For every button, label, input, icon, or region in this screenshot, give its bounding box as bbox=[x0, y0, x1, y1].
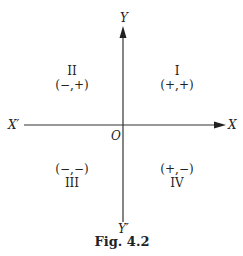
y-axis-label: Y bbox=[120, 12, 128, 24]
quadrant-2-signs: (−,+) bbox=[55, 79, 88, 91]
x-negative-axis-label: X′ bbox=[8, 119, 19, 131]
figure-caption: Fig. 4.2 bbox=[95, 234, 150, 249]
quadrant-4-signs: (+,−) bbox=[160, 163, 193, 175]
axes-graphic bbox=[0, 0, 243, 256]
origin-label: O bbox=[111, 130, 121, 142]
y-axis-arrow-icon bbox=[120, 26, 127, 38]
quadrant-3-signs: (−,−) bbox=[55, 163, 88, 175]
quadrant-1-numeral: I bbox=[175, 65, 180, 77]
quadrant-4-numeral: IV bbox=[170, 177, 183, 189]
x-axis-label: X bbox=[228, 119, 237, 131]
x-axis-arrow-icon bbox=[214, 122, 226, 129]
quadrant-3-numeral: III bbox=[65, 177, 79, 189]
quadrant-1-signs: (+,+) bbox=[160, 79, 193, 91]
quadrant-2-numeral: II bbox=[67, 65, 76, 77]
